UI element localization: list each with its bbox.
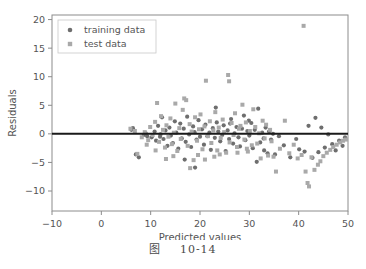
data-point bbox=[240, 103, 244, 107]
data-point bbox=[166, 135, 170, 139]
data-point bbox=[159, 114, 163, 118]
data-point bbox=[202, 143, 206, 147]
data-point bbox=[161, 128, 165, 132]
data-point bbox=[319, 125, 323, 129]
data-point bbox=[133, 129, 137, 133]
data-point bbox=[218, 152, 222, 156]
y-tick-label: 0 bbox=[39, 128, 45, 139]
data-point bbox=[163, 146, 167, 150]
data-point bbox=[242, 138, 246, 142]
data-point bbox=[155, 101, 159, 105]
data-point bbox=[175, 149, 179, 153]
data-point bbox=[255, 160, 259, 164]
legend-marker-test bbox=[68, 42, 72, 46]
data-point bbox=[294, 137, 298, 141]
data-point bbox=[229, 117, 233, 121]
data-point bbox=[250, 143, 254, 147]
data-point bbox=[287, 151, 291, 155]
series-test bbox=[128, 24, 348, 189]
data-point bbox=[213, 136, 217, 140]
data-point bbox=[171, 154, 175, 158]
data-point bbox=[203, 158, 207, 162]
data-point bbox=[219, 136, 223, 140]
data-point bbox=[128, 127, 132, 131]
data-point bbox=[335, 143, 339, 147]
data-point bbox=[255, 142, 259, 146]
data-point bbox=[192, 158, 196, 162]
data-point bbox=[168, 116, 172, 120]
data-point bbox=[209, 148, 213, 152]
data-point bbox=[306, 124, 310, 128]
y-tick-label: 20 bbox=[33, 14, 45, 25]
data-point bbox=[323, 145, 327, 149]
x-tick-label: 40 bbox=[293, 218, 305, 229]
y-tick-label: −5 bbox=[31, 157, 45, 168]
data-point bbox=[224, 151, 228, 155]
data-point bbox=[164, 157, 168, 161]
data-point bbox=[200, 147, 204, 151]
data-point bbox=[297, 147, 301, 151]
data-point bbox=[242, 113, 246, 117]
data-point bbox=[270, 139, 274, 143]
data-point bbox=[256, 107, 260, 111]
data-point bbox=[221, 118, 225, 122]
data-point bbox=[198, 135, 202, 139]
data-point bbox=[181, 108, 185, 112]
data-point bbox=[164, 123, 168, 127]
data-point bbox=[268, 128, 272, 132]
data-point bbox=[272, 155, 276, 159]
data-point bbox=[325, 151, 329, 155]
data-point bbox=[215, 120, 219, 124]
data-point bbox=[145, 143, 149, 147]
figure-caption: 图 10-14 bbox=[0, 240, 366, 256]
data-point bbox=[198, 112, 202, 116]
data-point bbox=[304, 170, 308, 174]
x-tick-label: 0 bbox=[98, 218, 104, 229]
data-point bbox=[146, 138, 150, 142]
data-point bbox=[344, 138, 348, 142]
data-point bbox=[235, 145, 239, 149]
data-point bbox=[215, 148, 219, 152]
data-point bbox=[230, 121, 234, 125]
data-point bbox=[244, 120, 248, 124]
residual-scatter-chart: −1001020304050−10−505101520Predicted val… bbox=[0, 0, 366, 240]
data-point bbox=[156, 124, 160, 128]
data-point bbox=[228, 140, 232, 144]
data-point bbox=[182, 127, 186, 131]
data-point bbox=[170, 142, 174, 146]
data-point bbox=[183, 157, 187, 161]
figure-container: −1001020304050−10−505101520Predicted val… bbox=[0, 0, 366, 269]
x-tick-label: 20 bbox=[194, 218, 206, 229]
y-tick-label: −10 bbox=[25, 185, 45, 196]
legend-label-test: test data bbox=[84, 38, 127, 49]
data-point bbox=[264, 123, 268, 127]
data-point bbox=[177, 126, 181, 130]
data-point bbox=[188, 122, 192, 126]
data-point bbox=[262, 148, 266, 152]
data-point bbox=[266, 154, 270, 158]
data-point bbox=[226, 73, 230, 77]
data-point bbox=[321, 154, 325, 158]
data-point bbox=[179, 137, 183, 141]
data-point bbox=[253, 125, 257, 129]
data-point bbox=[248, 129, 252, 133]
data-point bbox=[251, 107, 255, 111]
data-point bbox=[213, 110, 217, 114]
data-point bbox=[214, 105, 218, 109]
y-tick-label: 15 bbox=[33, 43, 45, 54]
data-point bbox=[185, 115, 189, 119]
data-point bbox=[153, 120, 157, 124]
data-point bbox=[197, 127, 201, 131]
data-point bbox=[316, 150, 320, 154]
data-point bbox=[140, 135, 144, 139]
x-tick-label: 30 bbox=[243, 218, 255, 229]
data-point bbox=[135, 152, 139, 156]
y-tick-label: 5 bbox=[39, 100, 45, 111]
data-point bbox=[300, 153, 304, 157]
legend-marker-training bbox=[68, 28, 73, 33]
data-point bbox=[208, 119, 212, 123]
data-point bbox=[148, 125, 152, 129]
data-point bbox=[283, 119, 287, 123]
x-tick-label: −10 bbox=[42, 218, 62, 229]
x-tick-label: 50 bbox=[342, 218, 354, 229]
